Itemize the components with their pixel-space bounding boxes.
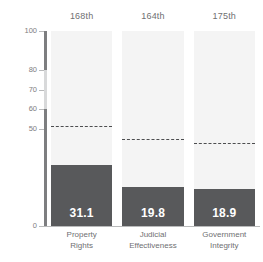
category-label-line1: Property (67, 230, 97, 239)
y-axis-tick-100: 100 (0, 26, 44, 36)
rank-label-row: 168th 164th 175th (46, 6, 260, 26)
y-axis-tick-label: 50 (29, 124, 37, 134)
category-label-judicial-effectiveness: Judicial Effectiveness (117, 230, 188, 260)
y-axis-tick-60: 60 (0, 104, 44, 114)
y-axis-tick-50: 50 (0, 124, 44, 134)
y-axis-tick-mark (39, 70, 44, 71)
column-judicial-effectiveness: 19.8 (117, 31, 188, 226)
column-government-integrity: 18.9 (189, 31, 260, 226)
average-reference-line-property-rights (51, 126, 112, 127)
bar-chart: 168th 164th 175th 100807060500 31.1 19.8 (0, 0, 263, 262)
y-axis-tick-mark (39, 129, 44, 130)
y-axis-ticks: 100807060500 (0, 31, 44, 226)
y-axis-tick-label: 0 (33, 221, 37, 231)
category-label-line2: Rights (70, 241, 93, 250)
y-axis-tick-80: 80 (0, 65, 44, 75)
bar-judicial-effectiveness: 19.8 (122, 187, 183, 226)
category-label-line1: Judicial (140, 230, 167, 239)
y-axis-tick-label: 70 (29, 85, 37, 95)
y-axis-tick-mark (39, 90, 44, 91)
x-axis-baseline (44, 226, 260, 227)
y-axis-tick-70: 70 (0, 85, 44, 95)
average-reference-line-judicial-effectiveness (122, 139, 183, 140)
plot-area: 31.1 19.8 18.9 (46, 31, 260, 226)
y-axis-tick-label: 60 (29, 104, 37, 114)
category-label-row: Property Rights Judicial Effectiveness G… (46, 230, 260, 260)
category-label-line2: Integrity (210, 241, 238, 250)
bar-value-government-integrity: 18.9 (194, 206, 255, 220)
y-axis-tick-mark (39, 109, 44, 110)
bar-value-property-rights: 31.1 (51, 206, 112, 220)
bar-property-rights: 31.1 (51, 165, 112, 226)
category-label-line2: Effectiveness (129, 241, 176, 250)
column-row: 31.1 19.8 18.9 (46, 31, 260, 226)
category-label-line1: Government (202, 230, 246, 239)
average-reference-line-government-integrity (194, 143, 255, 144)
bar-value-judicial-effectiveness: 19.8 (122, 206, 183, 220)
y-axis-tick-mark (39, 31, 44, 32)
rank-label-government-integrity: 175th (189, 6, 260, 26)
bar-government-integrity: 18.9 (194, 189, 255, 226)
y-axis-tick-label: 80 (29, 65, 37, 75)
rank-label-judicial-effectiveness: 164th (117, 6, 188, 26)
category-label-property-rights: Property Rights (46, 230, 117, 260)
y-axis-tick-0: 0 (0, 221, 44, 231)
rank-label-property-rights: 168th (46, 6, 117, 26)
category-label-government-integrity: Government Integrity (189, 230, 260, 260)
y-axis-tick-label: 100 (24, 26, 37, 36)
column-property-rights: 31.1 (46, 31, 117, 226)
